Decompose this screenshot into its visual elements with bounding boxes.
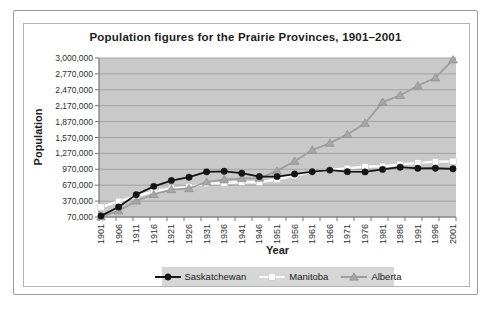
svg-text:3,000,000: 3,000,000 bbox=[55, 53, 93, 63]
legend-item-manitoba: Manitoba bbox=[259, 271, 328, 282]
svg-text:1966: 1966 bbox=[325, 224, 335, 244]
svg-text:1941: 1941 bbox=[237, 224, 247, 244]
svg-text:1936: 1936 bbox=[219, 224, 229, 244]
saskatchewan-line-circle-icon bbox=[155, 272, 181, 282]
svg-text:970,000: 970,000 bbox=[62, 164, 93, 174]
svg-text:2001: 2001 bbox=[448, 224, 458, 244]
svg-text:1906: 1906 bbox=[114, 224, 124, 244]
manitoba-line-square-icon bbox=[259, 272, 285, 282]
y-axis-ticks: 70,000370,000670,000970,0001,270,0001,57… bbox=[55, 53, 99, 222]
svg-text:1901: 1901 bbox=[96, 224, 106, 244]
svg-text:1991: 1991 bbox=[413, 224, 423, 244]
svg-text:1981: 1981 bbox=[378, 224, 388, 244]
svg-text:1,270,000: 1,270,000 bbox=[55, 148, 93, 158]
svg-text:1,870,000: 1,870,000 bbox=[55, 117, 93, 127]
x-axis-ticks: 1901190619111916192119261931193619411946… bbox=[96, 217, 458, 244]
alberta-line-triangle-icon bbox=[341, 272, 367, 282]
svg-text:1911: 1911 bbox=[131, 224, 141, 243]
legend-label: Manitoba bbox=[289, 271, 328, 282]
svg-text:1976: 1976 bbox=[360, 224, 370, 244]
svg-text:2,470,000: 2,470,000 bbox=[55, 85, 93, 95]
svg-text:1,570,000: 1,570,000 bbox=[55, 133, 93, 143]
legend-label: Alberta bbox=[371, 271, 401, 282]
svg-text:2,770,000: 2,770,000 bbox=[55, 69, 93, 79]
svg-text:1916: 1916 bbox=[149, 224, 159, 244]
svg-text:1986: 1986 bbox=[395, 224, 405, 244]
legend: Saskatchewan Manitoba Alberta bbox=[162, 267, 394, 286]
svg-text:70,000: 70,000 bbox=[67, 212, 93, 222]
svg-text:1961: 1961 bbox=[307, 224, 317, 244]
svg-text:370,000: 370,000 bbox=[62, 196, 93, 206]
y-axis-title: Population bbox=[32, 109, 44, 166]
svg-text:1946: 1946 bbox=[254, 224, 264, 244]
svg-text:1931: 1931 bbox=[202, 224, 212, 244]
chart-card: Population figures for the Prairie Provi… bbox=[13, 10, 478, 295]
svg-text:1921: 1921 bbox=[166, 224, 176, 244]
svg-text:2,170,000: 2,170,000 bbox=[55, 101, 93, 111]
legend-item-alberta: Alberta bbox=[341, 271, 401, 282]
svg-text:1951: 1951 bbox=[272, 224, 282, 244]
svg-text:1926: 1926 bbox=[184, 224, 194, 244]
svg-text:670,000: 670,000 bbox=[62, 180, 93, 190]
legend-label: Saskatchewan bbox=[185, 271, 247, 282]
x-axis-title: Year bbox=[99, 244, 456, 256]
svg-text:1971: 1971 bbox=[342, 224, 352, 244]
legend-item-saskatchewan: Saskatchewan bbox=[155, 271, 247, 282]
svg-text:1996: 1996 bbox=[430, 224, 440, 244]
svg-text:1956: 1956 bbox=[290, 224, 300, 244]
